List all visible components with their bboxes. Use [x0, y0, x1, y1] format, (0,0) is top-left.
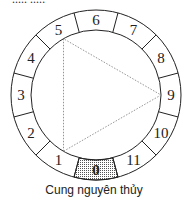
- segment-label-8: 8: [157, 50, 165, 66]
- segment-label-5: 5: [55, 22, 63, 38]
- segment-label-3: 3: [17, 87, 25, 103]
- dotted-triangle: [64, 39, 162, 152]
- segment-divider: [36, 141, 50, 155]
- segment-label-7: 7: [130, 22, 138, 38]
- circle-of-fifths-diagram: 01234567891011: [0, 0, 188, 201]
- segment-divider: [113, 13, 118, 32]
- segment-divider: [142, 35, 156, 49]
- inner-circle: [31, 30, 161, 160]
- segment-dividers: [14, 13, 178, 177]
- segment-divider: [14, 73, 33, 78]
- caption: Cung nguyên thủy: [0, 183, 188, 197]
- segment-divider: [14, 112, 33, 117]
- segment-label-10: 10: [153, 125, 168, 141]
- segment-label-4: 4: [27, 50, 35, 66]
- segment-divider: [74, 13, 79, 32]
- segment-divider: [159, 73, 178, 78]
- segment-label-0: 0: [92, 162, 100, 178]
- segment-label-2: 2: [27, 125, 35, 141]
- segment-label-9: 9: [167, 87, 175, 103]
- segment-divider: [142, 141, 156, 155]
- segment-divider: [36, 35, 50, 49]
- segment-label-11: 11: [126, 152, 140, 168]
- segment-label-1: 1: [55, 152, 63, 168]
- segment-label-6: 6: [92, 12, 100, 28]
- segment-divider: [159, 112, 178, 117]
- segment-labels: 01234567891011: [17, 12, 175, 178]
- triangle: [64, 39, 162, 152]
